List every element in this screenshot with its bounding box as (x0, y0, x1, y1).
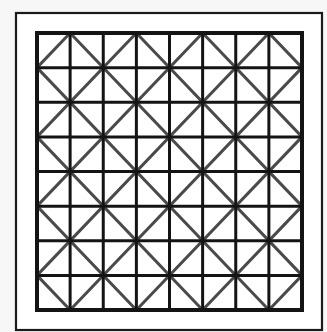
grid-figure (0, 0, 327, 332)
